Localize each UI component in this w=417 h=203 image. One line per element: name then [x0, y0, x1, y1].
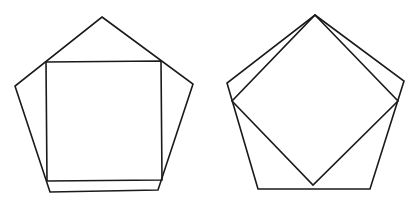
square-left [46, 61, 162, 181]
pentagon-left [15, 17, 193, 192]
figure-left [15, 17, 193, 192]
figure-right [227, 15, 404, 189]
square-right [232, 15, 398, 185]
pentagon-right [227, 15, 404, 189]
geometry-diagram [0, 0, 417, 203]
